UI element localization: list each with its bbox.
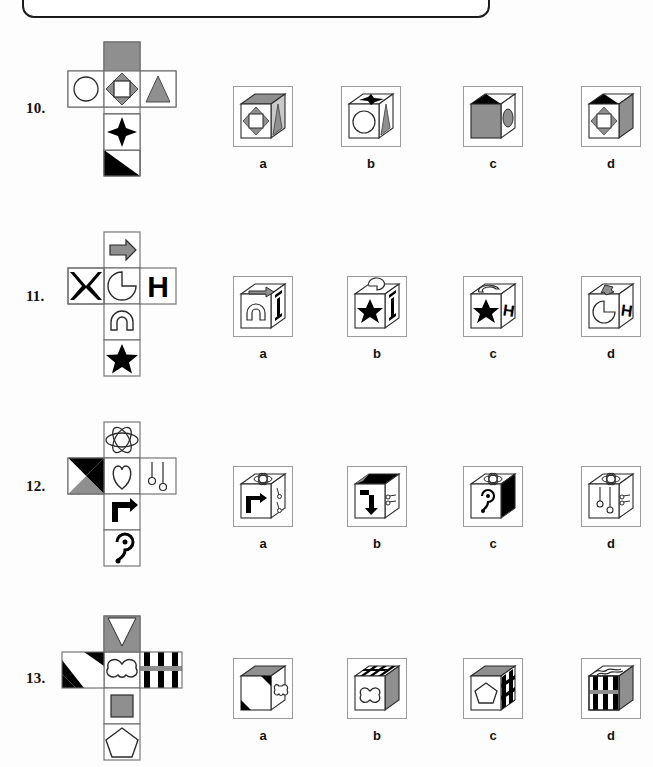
cube-net-12: [70, 420, 190, 570]
svg-text:H: H: [620, 301, 634, 319]
net12-face-black-gray-triangle-pair: [68, 458, 104, 494]
option-label-13-d: d: [601, 728, 621, 743]
option-label-10-a: a: [253, 156, 273, 171]
option-label-11-b: b: [367, 346, 387, 361]
svg-text:H: H: [502, 301, 516, 319]
option-label-11-d: d: [601, 346, 621, 361]
question-number-12: 12.: [26, 478, 45, 495]
top-rounded-panel: [22, 0, 490, 18]
option-label-11-c: c: [483, 346, 503, 361]
question-number-11: 11.: [26, 288, 45, 305]
cube-net-10: [70, 40, 190, 175]
net13-face-diagonal-black-stripes: [62, 652, 104, 688]
question-number-13: 13.: [26, 670, 45, 687]
option-label-10-d: d: [601, 156, 621, 171]
net13-face-gray-with-white-triangle: [104, 616, 140, 652]
svg-text:H: H: [147, 270, 169, 303]
cube-net-13: [70, 614, 195, 767]
option-label-10-c: c: [483, 156, 503, 171]
option-label-13-b: b: [367, 728, 387, 743]
worksheet-page: 10.: [0, 0, 653, 767]
net13-face-vertical-black-stripes: [140, 652, 182, 688]
option-label-13-a: a: [253, 728, 273, 743]
net10-face-circle-outline: [74, 77, 98, 101]
option-label-12-a: a: [253, 536, 273, 551]
option-label-12-d: d: [601, 536, 621, 551]
question-number-10: 10.: [26, 100, 45, 117]
option-label-12-c: c: [483, 536, 503, 551]
net13-face-gray-square: [111, 695, 133, 717]
net11-face-letter-h: H: [147, 270, 169, 303]
cube-net-11: H: [70, 230, 190, 380]
option-label-11-a: a: [253, 346, 273, 361]
option-label-10-b: b: [361, 156, 381, 171]
option-label-13-c: c: [483, 728, 503, 743]
option-label-12-b: b: [367, 536, 387, 551]
